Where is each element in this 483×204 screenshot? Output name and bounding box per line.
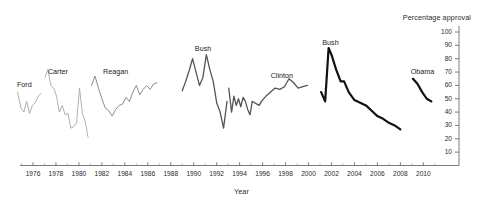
series-line-reagan-2 [92,76,157,116]
y-tick-label: 90 [434,41,452,48]
series-line-bush-3 [182,55,227,128]
series-line-bush-5 [321,48,400,129]
y-tick-label: 100 [434,28,452,35]
series-label-clinton-4: Clinton [271,71,293,80]
series-label-obama-6: Obama [411,67,435,76]
x-tick-label: 2010 [410,170,436,177]
y-tick-label: 60 [434,81,452,88]
y-axis-title: Percentage approval [403,13,471,22]
y-tick-label: 50 [434,95,452,102]
series-line-clinton-4 [229,79,308,115]
series-label-carter-1: Carter [48,67,68,76]
series-line-ford-0 [18,92,42,113]
series-line-carter-1 [45,69,88,137]
series-label-ford-0: Ford [17,80,32,89]
series-label-bush-3: Bush [195,44,211,53]
x-axis-title: Year [0,187,483,196]
y-tick-label: 20 [434,135,452,142]
y-tick-label: 10 [434,148,452,155]
y-tick-label: 80 [434,55,452,62]
series-label-bush-5: Bush [322,38,338,47]
y-tick-label: 30 [434,121,452,128]
y-tick-label: 40 [434,108,452,115]
y-tick-label: 70 [434,68,452,75]
series-label-reagan-2: Reagan [103,67,128,76]
series-line-obama-6 [413,79,431,102]
approval-rating-chart: Percentage approval Year 102030405060708… [0,0,483,204]
